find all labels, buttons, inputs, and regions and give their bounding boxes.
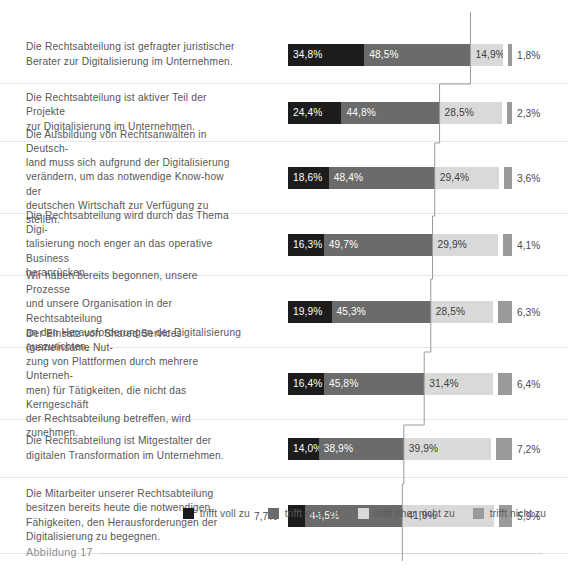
segment-value-label: 29,4% <box>435 172 469 183</box>
segment-value-label: 45,8% <box>324 378 358 389</box>
row-bar-track: 16,4%45,8%31,4%6,4% <box>250 373 568 395</box>
legend-item[interactable]: trifft voll zu <box>183 508 250 519</box>
segment-value-outside-right: 3,6% <box>517 172 540 183</box>
bar-segment: 31,4% <box>424 373 493 395</box>
bar-segment: 48,5% <box>364 44 470 66</box>
caption-label: Abbildung 17 <box>26 546 93 558</box>
figure-caption: Abbildung 17 <box>26 546 542 558</box>
segment-value-label: 16,3% <box>288 239 322 250</box>
row-statement-line: Berater zur Digitalisierung im Unternehm… <box>26 55 242 69</box>
bar-segment: 14,0% <box>288 438 319 460</box>
row-statement-line: men) für Tätigkeiten, die nicht das Kern… <box>26 384 242 412</box>
legend-label: trifft nicht zu <box>490 508 546 519</box>
segment-value-label: 28,5% <box>431 306 465 317</box>
segment-value-label: 29,9% <box>433 239 467 250</box>
bar-segment: 19,9% <box>288 301 332 323</box>
legend-swatch-icon <box>268 508 279 519</box>
segment-value-label: 18,6% <box>288 172 322 183</box>
bar-segment <box>503 234 512 256</box>
row-statement-line: Der Einsatz von Shared Services (gemeins… <box>26 327 242 355</box>
row-bar-track: 34,8%48,5%14,9%1,8% <box>250 44 568 66</box>
bar-segment <box>498 373 512 395</box>
segment-value-label: 39,9% <box>404 443 438 454</box>
segment-value-label: 38,9% <box>319 443 353 454</box>
row-statement-line: zung von Plattformen durch mehrere Unter… <box>26 355 242 383</box>
bar-segment: 28,5% <box>440 102 502 124</box>
segment-value-label: 44,8% <box>341 107 375 118</box>
bar-segment: 34,8% <box>288 44 364 66</box>
bar-segment: 28,5% <box>431 301 493 323</box>
segment-value-label: 16,4% <box>288 378 322 389</box>
segment-value-label: 49,7% <box>324 239 358 250</box>
chart-legend: trifft voll zutrifft eher zutrifft eher … <box>0 508 568 519</box>
row-statement-line: digitalen Transformation im Unternehmen. <box>26 449 242 463</box>
chart-rows: Die Rechtsabteilung ist gefragter jurist… <box>0 26 568 554</box>
bar-segment: 44,8% <box>341 102 439 124</box>
row-statement-line: Die Rechtsabteilung ist gefragter jurist… <box>26 40 242 54</box>
figure-container: Die Rechtsabteilung ist gefragter jurist… <box>0 0 568 580</box>
table-row: Die Ausbildung von Rechtsanwälten in Deu… <box>0 142 568 214</box>
bar-segment: 14,9% <box>470 44 503 66</box>
bar-segment: 49,7% <box>324 234 433 256</box>
bar-segment <box>504 167 512 189</box>
legend-swatch-icon <box>358 508 369 519</box>
segment-value-label: 31,4% <box>424 378 458 389</box>
bar-segment: 16,3% <box>288 234 324 256</box>
legend-label: trifft eher nicht zu <box>375 508 455 519</box>
bar-segment <box>507 102 512 124</box>
segment-value-outside-right: 7,2% <box>517 443 540 454</box>
segment-value-outside-right: 6,3% <box>517 306 540 317</box>
bar-segment: 39,9% <box>404 438 491 460</box>
bar-segment: 29,4% <box>435 167 499 189</box>
segment-value-label: 14,9% <box>470 49 503 60</box>
bar-segment: 45,8% <box>324 373 424 395</box>
bar-segment: 38,9% <box>319 438 404 460</box>
row-statement-line: Die Mitarbeiter unserer Rechtsabteilung <box>26 487 242 501</box>
legend-label: trifft eher zu <box>285 508 340 519</box>
segment-value-outside-right: 1,8% <box>517 49 540 60</box>
segment-value-label: 14,0% <box>288 443 319 454</box>
segment-value-label: 28,5% <box>440 107 474 118</box>
row-statement-line: Die Rechtsabteilung wird durch das Thema… <box>26 209 242 237</box>
row-statement-line: verändern, um das notwendige Know-how de… <box>26 170 242 198</box>
segment-value-label: 48,4% <box>329 172 363 183</box>
row-statement-line: und unsere Organisation in der Rechtsabt… <box>26 297 242 325</box>
row-statement-label: Die Rechtsabteilung ist gefragter jurist… <box>0 40 250 68</box>
legend-item[interactable]: trifft eher nicht zu <box>358 508 455 519</box>
segment-value-label: 19,9% <box>288 306 322 317</box>
row-bar-track: 14,0%38,9%39,9%7,2% <box>250 438 568 460</box>
bar-segment: 16,4% <box>288 373 324 395</box>
row-statement-label: Die Rechtsabteilung ist Mitgestalter der… <box>0 434 250 462</box>
bar-segment: 45,3% <box>332 301 431 323</box>
bar-segment: 24,4% <box>288 102 341 124</box>
table-row: Der Einsatz von Shared Services (gemeins… <box>0 348 568 420</box>
row-statement-line: talisierung noch enger an das operative … <box>26 237 242 265</box>
segment-value-label: 45,3% <box>332 306 366 317</box>
legend-item[interactable]: trifft nicht zu <box>473 508 546 519</box>
segment-value-label: 24,4% <box>288 107 322 118</box>
table-row: Die Rechtsabteilung ist gefragter jurist… <box>0 26 568 84</box>
bar-segment <box>508 44 512 66</box>
table-row: Die Rechtsabteilung ist Mitgestalter der… <box>0 420 568 478</box>
bar-segment: 18,6% <box>288 167 329 189</box>
legend-label: trifft voll zu <box>200 508 250 519</box>
bar-segment <box>498 301 512 323</box>
row-statement-line: Die Rechtsabteilung ist aktiver Teil der… <box>26 91 242 119</box>
bar-segment: 48,4% <box>329 167 435 189</box>
segment-value-outside-right: 2,3% <box>517 107 540 118</box>
table-row: Die Rechtsabteilung wird durch das Thema… <box>0 214 568 276</box>
row-bar-track: 18,6%48,4%29,4%3,6% <box>250 167 568 189</box>
segment-value-label: 48,5% <box>364 49 398 60</box>
row-bar-track: 16,3%49,7%29,9%4,1% <box>250 234 568 256</box>
bar-segment <box>496 438 512 460</box>
segment-value-outside-right: 4,1% <box>517 239 540 250</box>
row-bar-track: 24,4%44,8%28,5%2,3% <box>250 102 568 124</box>
row-statement-line: Digitalisierung zu begegnen. <box>26 530 242 544</box>
legend-item[interactable]: trifft eher zu <box>268 508 340 519</box>
legend-swatch-icon <box>183 508 194 519</box>
row-statement-line: Wir haben bereits begonnen, unsere Proze… <box>26 269 242 297</box>
row-bar-track: 19,9%45,3%28,5%6,3% <box>250 301 568 323</box>
row-statement-line: Die Ausbildung von Rechtsanwälten in Deu… <box>26 128 242 156</box>
caption-dotted-rule <box>99 553 542 554</box>
row-statement-line: land muss sich aufgrund der Digitalisier… <box>26 156 242 170</box>
